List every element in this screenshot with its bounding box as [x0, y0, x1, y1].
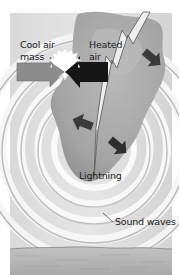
- ground: [10, 247, 172, 275]
- cool-air-label-line2: mass: [20, 52, 44, 62]
- lightning-label: Lightning: [79, 171, 122, 181]
- collision-burst-icon: [49, 48, 81, 83]
- sound-waves-label: Sound waves: [115, 217, 176, 227]
- thunder-diagram: Cool air mass Heated air Lightning Sound…: [0, 0, 179, 275]
- cool-air-label-line1: Cool air: [20, 40, 55, 50]
- heated-air-label-line1: Heated: [89, 40, 122, 50]
- heated-air-label-line2: air: [89, 52, 101, 62]
